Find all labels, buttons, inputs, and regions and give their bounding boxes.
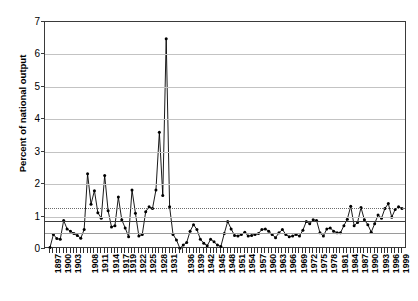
data-point [93, 189, 96, 192]
x-tick-label-1939: 1939 [196, 254, 206, 273]
x-tick-mark [401, 248, 402, 253]
x-tick-label-1996: 1996 [391, 254, 401, 273]
x-tick-mark [234, 248, 235, 253]
gridline-y-2 [45, 184, 405, 185]
x-tick-label-1897: 1897 [53, 254, 63, 273]
x-tick-mark [114, 248, 115, 253]
data-point [134, 212, 137, 215]
x-tick-mark [165, 248, 166, 253]
data-point [216, 244, 219, 247]
x-tick-mark [357, 248, 358, 253]
data-point [329, 226, 332, 229]
x-tick-mark [326, 248, 327, 253]
plot-area [44, 21, 406, 248]
x-tick-mark [377, 248, 378, 253]
data-point [127, 235, 130, 238]
x-tick-label-1922: 1922 [138, 254, 148, 273]
y-tick-label-1: 1 [16, 210, 40, 221]
data-point [308, 222, 311, 225]
x-tick-label-1925: 1925 [148, 254, 158, 273]
x-tick-label-1993: 1993 [381, 254, 391, 273]
x-tick-mark [148, 248, 149, 253]
data-point [131, 188, 134, 191]
data-point [250, 234, 253, 237]
x-tick-label-1978: 1978 [329, 254, 339, 273]
x-tick-mark [56, 248, 57, 253]
data-point [107, 209, 110, 212]
data-point [353, 224, 356, 227]
x-tick-mark [196, 248, 197, 253]
data-point [76, 234, 79, 237]
x-tick-label-1972: 1972 [309, 254, 319, 273]
x-tick-mark [162, 248, 163, 253]
data-point [325, 227, 328, 230]
gridline-y-6 [45, 54, 405, 55]
x-tick-label-1945: 1945 [217, 254, 227, 273]
x-tick-mark [66, 248, 67, 253]
x-tick-mark [271, 248, 272, 253]
data-point [96, 211, 99, 214]
x-tick-mark [107, 248, 108, 253]
data-point [291, 235, 294, 238]
data-point [144, 210, 147, 213]
x-tick-mark [104, 248, 105, 253]
data-point [195, 228, 198, 231]
y-tick-label-3: 3 [16, 145, 40, 156]
x-tick-mark [63, 248, 64, 253]
x-tick-mark [275, 248, 276, 253]
x-tick-label-1963: 1963 [278, 254, 288, 273]
gridline-y-4 [45, 119, 405, 120]
data-point [209, 238, 212, 241]
x-tick-mark [93, 248, 94, 253]
data-point [322, 235, 325, 238]
x-tick-label-1987: 1987 [360, 254, 370, 273]
data-point [298, 235, 301, 238]
reference-line-solid-lower [45, 233, 405, 234]
data-point [349, 205, 352, 208]
x-tick-label-1911: 1911 [100, 254, 110, 273]
x-tick-mark [124, 248, 125, 253]
data-point [206, 244, 209, 247]
data-point [288, 235, 291, 238]
data-point [230, 227, 233, 230]
x-tick-mark [367, 248, 368, 253]
data-point [158, 131, 161, 134]
x-tick-label-1936: 1936 [186, 254, 196, 273]
x-tick-mark [316, 248, 317, 253]
x-tick-label-1981: 1981 [340, 254, 350, 273]
data-point [161, 194, 164, 197]
chart-figure: Percent of national output 01234567 1897… [0, 0, 418, 301]
x-tick-mark [121, 248, 122, 253]
x-tick-mark [339, 248, 340, 253]
x-tick-mark [281, 248, 282, 253]
x-tick-mark [257, 248, 258, 253]
x-tick-mark [206, 248, 207, 253]
x-tick-mark [111, 248, 112, 253]
data-point [113, 224, 116, 227]
data-point [366, 223, 369, 226]
x-tick-mark [220, 248, 221, 253]
y-tick-label-5: 5 [16, 80, 40, 91]
data-point [175, 238, 178, 241]
x-tick-mark [175, 248, 176, 253]
x-tick-mark [370, 248, 371, 253]
data-point [59, 238, 62, 241]
x-tick-mark [227, 248, 228, 253]
x-tick-mark [285, 248, 286, 253]
x-tick-mark [199, 248, 200, 253]
data-point [387, 202, 390, 205]
x-tick-mark [179, 248, 180, 253]
x-tick-mark [305, 248, 306, 253]
x-tick-label-1999: 1999 [401, 254, 411, 273]
x-tick-mark [264, 248, 265, 253]
x-tick-mark [90, 248, 91, 253]
data-point [301, 229, 304, 232]
data-point [90, 203, 93, 206]
x-tick-label-1966: 1966 [288, 254, 298, 273]
data-point [182, 244, 185, 247]
x-tick-mark [398, 248, 399, 253]
x-tick-mark [100, 248, 101, 253]
data-line-series [45, 22, 407, 249]
data-point [202, 242, 205, 245]
data-point [281, 228, 284, 231]
